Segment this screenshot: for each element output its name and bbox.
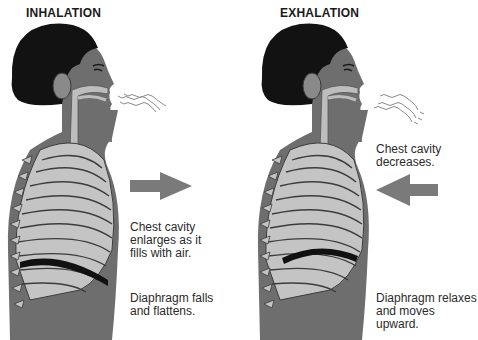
inhalation-chest-caption: Chest cavity enlarges as it fills with a… [130,221,201,260]
breathing-illustration [0,0,478,340]
exhalation-chest-caption: Chest cavity decreases. [376,143,441,169]
arrow-left-icon [376,174,438,206]
caption-line: fills with air. [130,247,201,260]
exhalation-diaphragm-caption: Diaphragm relaxes and moves upward. [376,292,478,331]
caption-line: and moves upward. [376,305,478,331]
arrow-right-icon [130,172,192,200]
caption-line: and flattens. [130,305,213,318]
inhalation-diaphragm-caption: Diaphragm falls and flattens. [130,292,213,318]
caption-line: decreases. [376,156,441,169]
